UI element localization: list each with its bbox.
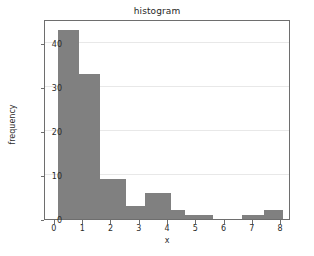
histogram-figure: histogram 010203040 012345678 x frequenc… bbox=[0, 0, 314, 256]
histogram-bar bbox=[242, 215, 265, 219]
y-tick-label: 20 bbox=[22, 128, 62, 137]
x-tick-mark bbox=[280, 220, 281, 224]
x-tick-label: 3 bbox=[129, 224, 149, 233]
y-tick-label: 10 bbox=[22, 172, 62, 181]
histogram-bar bbox=[264, 210, 282, 219]
x-tick-mark bbox=[252, 220, 253, 224]
y-axis-label: frequency bbox=[8, 95, 17, 155]
x-tick-label: 0 bbox=[44, 224, 64, 233]
histogram-bar bbox=[79, 74, 100, 219]
plot-area bbox=[44, 20, 290, 220]
histogram-bar bbox=[145, 193, 170, 219]
histogram-bar bbox=[185, 215, 213, 219]
x-tick-label: 6 bbox=[214, 224, 234, 233]
x-tick-mark bbox=[139, 220, 140, 224]
chart-title: histogram bbox=[0, 6, 314, 16]
histogram-bar bbox=[126, 206, 146, 219]
x-axis-label: x bbox=[44, 236, 290, 245]
gridline bbox=[45, 42, 289, 43]
x-tick-mark bbox=[82, 220, 83, 224]
histogram-bar bbox=[171, 210, 185, 219]
x-tick-label: 5 bbox=[185, 224, 205, 233]
x-tick-mark bbox=[110, 220, 111, 224]
histogram-bar bbox=[58, 30, 79, 219]
x-tick-mark bbox=[195, 220, 196, 224]
x-tick-mark bbox=[224, 220, 225, 224]
x-tick-label: 7 bbox=[242, 224, 262, 233]
x-tick-label: 8 bbox=[270, 224, 290, 233]
x-tick-label: 4 bbox=[157, 224, 177, 233]
histogram-bar bbox=[100, 179, 125, 219]
x-tick-label: 1 bbox=[72, 224, 92, 233]
y-tick-label: 40 bbox=[22, 40, 62, 49]
y-tick-label: 30 bbox=[22, 84, 62, 93]
x-tick-mark bbox=[54, 220, 55, 224]
x-tick-mark bbox=[167, 220, 168, 224]
x-tick-label: 2 bbox=[100, 224, 120, 233]
